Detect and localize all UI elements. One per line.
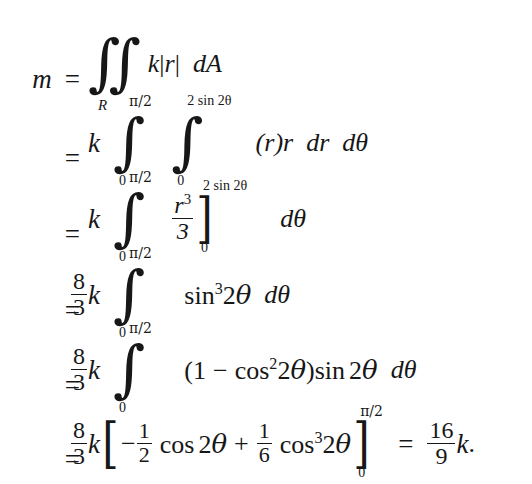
fraction-denominator: 3 (175, 219, 191, 244)
rbracket-icon: ] (353, 430, 369, 458)
sin-function: sin (315, 356, 345, 385)
coefficient-2b: 2 (349, 356, 362, 385)
double-integral-group: ∬ R (88, 45, 135, 83)
equals-sign-2: = (65, 143, 80, 174)
final-equals-sign: = (398, 429, 413, 460)
cos-function: cos (160, 430, 195, 459)
coefficient-2: 2 (223, 281, 236, 310)
sin-exponent: 3 (215, 280, 223, 297)
double-integral-icon: ∬ (88, 44, 135, 82)
line-6-coefficient-fraction: 8 3 (71, 418, 87, 469)
line-2-integral-inner: ∫ 2 sin 2θ 0 (171, 124, 203, 162)
line-3-fraction-r-cubed-over-3: r3 3 (172, 193, 193, 244)
theta-symbol: θ (211, 429, 227, 459)
equals-sign-3: = (65, 219, 80, 250)
integral-icon: ∫ (171, 123, 203, 161)
lbracket-icon: [ (102, 430, 118, 458)
fraction-denominator: 3 (71, 370, 87, 395)
line-5-lower-limit: 0 (119, 401, 126, 415)
fraction-numerator: r3 (172, 193, 193, 219)
line-5-integral: ∫ π/2 0 (113, 351, 145, 389)
numerator-exponent: 3 (184, 191, 191, 207)
line-4-differential: dθ (264, 280, 290, 310)
integrand-r: r (264, 128, 274, 157)
fraction-denominator: 2 (137, 444, 152, 467)
antiderivative-term1-function: cos2θ (160, 429, 227, 460)
equals-sign-1: = (65, 64, 80, 95)
line-5-integrand: (1−cos22θ)sin2θ (184, 355, 377, 386)
lparen: ( (184, 356, 193, 385)
antiderivative-term1-sign: − (121, 429, 136, 459)
integral-icon: ∫ (113, 123, 145, 161)
rbracket-icon: ] (196, 205, 212, 233)
line-2-inner-lower-limit: 0 (177, 174, 184, 188)
final-period: . (468, 429, 475, 459)
equation-line-1-lhs: m = (18, 64, 80, 95)
line-4-coefficient-k: k (88, 280, 100, 311)
fraction-denominator: 3 (71, 295, 87, 320)
constant-1: 1 (193, 356, 206, 385)
fraction-denominator: 9 (433, 444, 449, 469)
line-1-integrand: k|r| (148, 49, 180, 79)
cos-function: cos (280, 430, 315, 459)
integral-icon: ∫ (113, 350, 145, 388)
abs-bar-close: | (175, 49, 180, 78)
fraction-numerator: 16 (427, 418, 455, 444)
fraction-numerator: 1 (257, 420, 272, 444)
integrand-r: r (165, 49, 175, 78)
line-2-differential-dr: dr (306, 128, 329, 158)
final-value-fraction: 16 9 (427, 418, 455, 469)
fraction-denominator: 6 (257, 444, 272, 467)
theta-symbol-2: θ (362, 355, 378, 385)
numerator-r: r (174, 192, 183, 218)
math-derivation-page: m = ∬ R k|r| dA = k ∫ π/2 0 ∫ 2 sin 2θ 0… (0, 0, 532, 484)
line-2-integral-outer: ∫ π/2 0 (113, 124, 145, 162)
coefficient-2: 2 (322, 430, 335, 459)
fraction-numerator: 1 (137, 420, 152, 444)
line-4-coefficient-fraction: 8 3 (71, 269, 87, 320)
theta-symbol: θ (335, 429, 351, 459)
line-3-differential: dθ (280, 204, 306, 234)
minus-sign: − (213, 356, 228, 385)
line-6-coefficient-k: k (88, 429, 100, 460)
line-3-coefficient-k: k (88, 204, 100, 235)
cos-function: cos (235, 356, 270, 385)
sin-function: sin (184, 281, 214, 310)
line-4-integral: ∫ π/2 0 (113, 276, 145, 314)
line-3-integral: ∫ π/2 0 (113, 200, 145, 238)
line-6-bracket-upper: π/2 (360, 404, 383, 418)
variable-m: m (32, 64, 52, 95)
antiderivative-operator: + (234, 429, 249, 459)
integral-region-subscript: R (98, 98, 107, 113)
line-3-upper-limit: π/2 (129, 170, 152, 184)
theta-symbol: θ (236, 280, 252, 310)
integrand-r2: r (283, 128, 293, 157)
line-5-upper-limit: π/2 (129, 321, 152, 335)
line-5-differential: dθ (391, 355, 417, 385)
fraction-denominator: 3 (71, 444, 87, 469)
line-2-inner-upper-limit: 2 sin 2θ (187, 94, 231, 108)
line-2-outer-upper-limit: π/2 (129, 94, 152, 108)
coefficient-2: 2 (277, 356, 290, 385)
line-4-upper-limit: π/2 (129, 246, 152, 260)
line-1-differential: dA (193, 49, 222, 79)
line-3-bracket-upper: 2 sin 2θ (203, 179, 247, 193)
line-3-bracket-lower: 0 (201, 241, 208, 255)
integrand-k: k (148, 49, 160, 78)
line-2-coefficient-k: k (88, 128, 100, 159)
line-4-integrand: sin32θ (184, 280, 251, 311)
equation-line-2-lhs: = (18, 143, 80, 174)
line-5-coefficient-fraction: 8 3 (71, 344, 87, 395)
integral-icon: ∫ (113, 275, 145, 313)
line-3-evaluation-bracket: ] 2 sin 2θ 0 (194, 205, 215, 233)
fraction-numerator: 8 (71, 344, 87, 370)
antiderivative-term2-function: cos32θ (280, 429, 351, 460)
fraction-numerator: 8 (71, 269, 87, 295)
antiderivative-term2-fraction: 1 6 (257, 420, 272, 467)
fraction-numerator: 8 (71, 418, 87, 444)
lparen: ( (256, 128, 265, 157)
line-5-coefficient-k: k (88, 355, 100, 386)
line-2-integrand: (r)r (256, 128, 294, 158)
rparen: ) (274, 128, 283, 157)
equation-line-3-lhs: = (18, 219, 80, 250)
